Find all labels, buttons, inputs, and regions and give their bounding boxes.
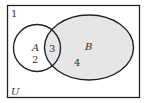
region-outside-label: 1 bbox=[11, 8, 17, 19]
set-b-label: B bbox=[84, 41, 92, 52]
universe-label: U bbox=[11, 86, 20, 97]
venn-diagram: 1 U A 2 3 B 4 bbox=[0, 0, 145, 103]
region-a-only-label: 2 bbox=[32, 54, 38, 65]
region-a-and-b-label: 3 bbox=[49, 43, 55, 54]
set-a-label: A bbox=[31, 42, 39, 53]
region-b-only-label: 4 bbox=[74, 57, 80, 68]
